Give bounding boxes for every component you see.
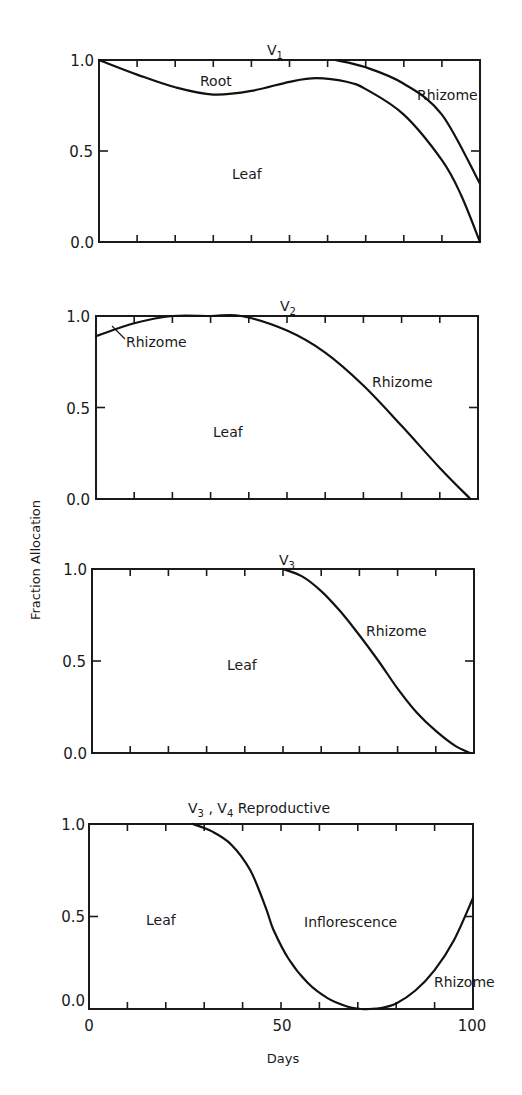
y-tick-label-0.5: 0.5 [61, 908, 85, 926]
y-tick-label-0: 0.0 [61, 992, 85, 1010]
x-tick-label-50: 50 [272, 1017, 291, 1035]
region-label-rhizome: Rhizome [372, 374, 433, 390]
y-tick-label-0.5: 0.5 [66, 400, 90, 418]
region-label-root: Root [200, 73, 232, 89]
region-label-leaf: Leaf [227, 657, 258, 673]
y-tick-label-0.5: 0.5 [69, 143, 93, 161]
panel-title: V1 [267, 42, 283, 61]
region-label-rhizome: Rhizome [366, 623, 427, 639]
y-tick-label-0: 0.0 [66, 491, 90, 509]
panel-v3-v4-reproductive: V3 , V4 Reproductive 1.0 0.5 0.0 Leaf In… [61, 800, 495, 1066]
panel-v1: V1 1.0 0.5 0.0 Root Rhizome Leaf [69, 42, 480, 252]
panel-title: V3 , V4 Reproductive [188, 800, 330, 819]
region-label-rhizome-early: Rhizome [126, 334, 187, 350]
region-label-rhizome: Rhizome [417, 87, 478, 103]
region-label-leaf: Leaf [213, 424, 244, 440]
y-tick-label-0: 0.0 [70, 234, 94, 252]
y-tick-label-1: 1.0 [66, 308, 90, 326]
panel-v2: V2 1.0 0.5 0.0 Rhizome Rhizome Leaf [66, 298, 478, 509]
y-tick-label-1: 1.0 [61, 816, 85, 834]
plot-frame [92, 569, 474, 753]
region-label-inflorescence: Inflorescence [304, 914, 397, 930]
x-tick-label-0: 0 [84, 1017, 94, 1035]
region-label-leaf: Leaf [232, 166, 263, 182]
y-tick-label-0.5: 0.5 [62, 653, 86, 671]
y-tick-label-1: 1.0 [63, 561, 87, 579]
allocation-figure: Fraction Allocation V1 1.0 0.5 0.0 Root … [0, 0, 522, 1095]
y-tick-label-1: 1.0 [70, 52, 94, 70]
region-label-rhizome: Rhizome [434, 974, 495, 990]
region-label-leaf: Leaf [146, 912, 177, 928]
y-tick-label-0: 0.0 [63, 745, 87, 763]
boundary-curve [283, 569, 470, 753]
y-axis-title: Fraction Allocation [28, 500, 43, 620]
x-tick-label-100: 100 [458, 1017, 487, 1035]
x-axis-title: Days [267, 1051, 300, 1066]
boundary-curve [335, 60, 480, 184]
panel-title: V2 [280, 298, 296, 317]
panel-v3: V3 1.0 0.5 0.0 Rhizome Leaf [62, 552, 474, 763]
